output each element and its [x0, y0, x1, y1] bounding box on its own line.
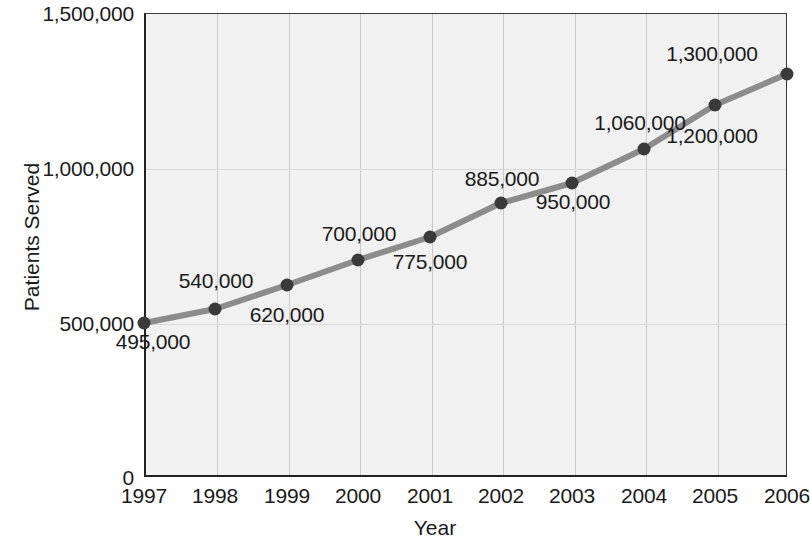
data-label: 620,000 — [222, 303, 352, 327]
y-axis-tick-label: 1,500,000 — [4, 2, 134, 26]
data-point — [424, 231, 437, 244]
data-point — [566, 177, 579, 190]
data-point — [495, 197, 508, 210]
data-point — [209, 303, 222, 316]
data-point — [781, 68, 794, 81]
x-axis-title: Year — [375, 516, 495, 540]
data-point — [138, 317, 151, 330]
data-label: 540,000 — [151, 269, 281, 293]
line-chart: 1,500,000 1,000,000 500,000 0 1997 1998 … — [0, 0, 810, 548]
data-label: 1,200,000 — [637, 124, 787, 148]
data-label: 700,000 — [294, 222, 424, 246]
data-point — [352, 254, 365, 267]
x-axis-tick-label: 2006 — [742, 484, 810, 508]
data-label: 885,000 — [437, 167, 567, 191]
data-label: 775,000 — [365, 250, 495, 274]
data-point — [709, 99, 722, 112]
data-point — [281, 279, 294, 292]
data-label: 495,000 — [88, 330, 218, 354]
y-axis-title: Patients Served — [20, 142, 44, 332]
data-label: 1,300,000 — [637, 42, 787, 66]
data-label: 950,000 — [508, 190, 638, 214]
